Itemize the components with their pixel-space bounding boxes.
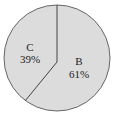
- slice-label-c-percent: 39%: [20, 53, 40, 65]
- slice-label-c-name: C: [26, 41, 33, 53]
- slice-label-b-name: B: [75, 55, 82, 67]
- pie-chart: C 39% B 61%: [0, 0, 115, 119]
- slice-label-b-percent: 61%: [69, 68, 89, 80]
